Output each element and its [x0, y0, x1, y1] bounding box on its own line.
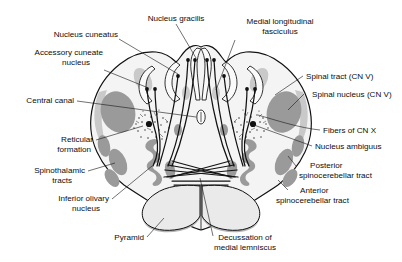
label-medial-longitudinal-line2: fasciculus [262, 27, 298, 36]
fiber-origin-dot-accessory-left-2 [145, 87, 149, 91]
label-nucleus-cuneatus: Nucleus cuneatus [54, 30, 118, 39]
label-nucleus-gracilis: Nucleus gracilis [148, 14, 205, 23]
label-spinal-nucleus: Spinal nucleus (CN V) [312, 90, 392, 99]
label-decussation-line2: medial lemniscus [214, 243, 276, 252]
label-anterior-spino-line1: Anterior [300, 186, 329, 195]
label-spinothalamic-line2: tracts [52, 176, 72, 185]
medulla-cross-section-diagram: Nucleus gracilis Nucleus cuneatus Access… [0, 0, 402, 262]
pyramid-group [142, 185, 260, 232]
label-reticular-line2: formation [57, 145, 91, 154]
label-spinothalamic-line1: Spinothalamic [34, 166, 85, 175]
label-central-canal: Central canal [26, 96, 74, 105]
label-accessory-cuneate-line2: nucleus [62, 58, 90, 67]
fiber-origin-dot-cuneatus-left [176, 74, 180, 78]
label-reticular-line1: Reticular [61, 135, 93, 144]
label-inferior-olivary-line1: Inferior olivary [58, 194, 110, 203]
label-decussation-line1: Decussation of [218, 233, 272, 242]
label-fibers-cn-x: Fibers of CN X [323, 126, 377, 135]
fiber-origin-dot-accessory-right [245, 87, 249, 91]
label-posterior-spino-line2: spinocerebellar tract [299, 171, 373, 180]
fiber-origin-dot-gracilis-right [205, 58, 209, 62]
label-accessory-cuneate-line1: Accessory cuneate [35, 48, 104, 57]
label-nucleus-ambiguus: Nucleus ambiguus [315, 142, 382, 151]
figure-canvas: Nucleus gracilis Nucleus cuneatus Access… [0, 0, 402, 262]
label-spinal-tract: Spinal tract (CN V) [306, 72, 374, 81]
label-anterior-spino-line2: spinocerebellar tract [276, 196, 350, 205]
fiber-origin-dot-accessory-left [153, 87, 157, 91]
label-posterior-spino-line1: Posterior [310, 161, 343, 170]
fiber-origin-dot-gracilis-left [193, 58, 197, 62]
fiber-origin-dot-gracilis-left-2 [186, 58, 190, 62]
central-canal-group [197, 110, 205, 124]
fiber-origin-dot-accessory-right-2 [253, 87, 257, 91]
label-medial-longitudinal-line1: Medial longitudinal [246, 17, 313, 26]
label-pyramid: Pyramid [114, 233, 144, 242]
fiber-origin-dot-cuneatus-right [222, 74, 226, 78]
nucleus-ambiguus-right [250, 121, 256, 127]
nucleus-ambiguus-left [146, 121, 152, 127]
label-inferior-olivary-line2: nucleus [72, 204, 100, 213]
fiber-origin-dot-gracilis-right-2 [212, 58, 216, 62]
